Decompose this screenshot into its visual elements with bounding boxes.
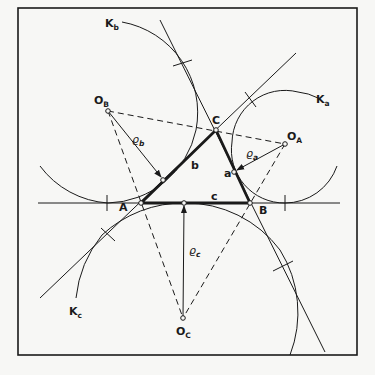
label-oa: OA xyxy=(287,130,302,145)
tangent-point-b xyxy=(161,178,166,183)
label-vertex-b: B xyxy=(259,204,267,217)
label-rho-b: ϱb xyxy=(132,133,145,148)
circle-ka xyxy=(232,90,318,142)
point-a xyxy=(139,201,144,206)
radius-rho-c xyxy=(183,206,184,318)
label-oc: OC xyxy=(176,325,191,340)
extended-side-lines xyxy=(38,20,340,352)
point-b xyxy=(248,201,253,206)
point-c xyxy=(214,128,219,133)
label-kb: Kb xyxy=(105,17,120,32)
label-side-c: c xyxy=(211,190,218,203)
label-kc: Kc xyxy=(69,305,82,320)
diagram-frame xyxy=(18,8,357,355)
label-side-b: b xyxy=(191,159,199,172)
tangent-point-a xyxy=(232,170,237,175)
label-ka: Ka xyxy=(316,93,330,108)
label-rho-c: ϱc xyxy=(189,244,201,259)
point-oc xyxy=(181,316,186,321)
point-ob xyxy=(106,109,111,114)
label-rho-a: ϱa xyxy=(246,147,258,162)
label-ob: OB xyxy=(94,94,109,109)
tangent-point-c xyxy=(182,201,187,206)
excircle-diagram: A B C a b c OB OA OC ϱb ϱa ϱc Kb Ka Kc xyxy=(0,0,375,375)
label-side-a: a xyxy=(224,167,231,180)
excircle-arcs xyxy=(40,22,337,355)
label-vertex-c: C xyxy=(212,114,220,127)
label-vertex-a: A xyxy=(119,201,128,214)
